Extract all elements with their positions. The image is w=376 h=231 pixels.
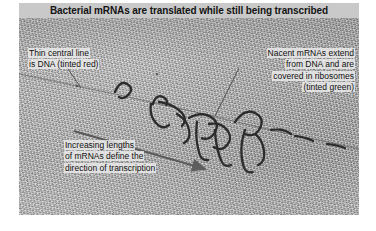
direction-of-transcription-label-text: Increasing lengths of mRNAs define the d…	[64, 140, 156, 173]
nacent-mrna-label: Nacent mRNAs extend from DNA and are cov…	[200, 36, 355, 94]
figure-title-bar: Bacterial mRNAs are translated while sti…	[19, 3, 359, 18]
thin-central-line-label: Thin central line is DNA (tinted red)	[28, 36, 99, 71]
direction-of-transcription-label: Increasing lengths of mRNAs define the d…	[64, 128, 156, 174]
thin-central-line-label-text: Thin central line is DNA (tinted red)	[28, 48, 99, 70]
nacent-mrna-label-text: Nacent mRNAs extend from DNA and are cov…	[267, 48, 355, 93]
page-title: Bacterial mRNAs are translated while sti…	[50, 5, 328, 16]
figure-panel: Bacterial mRNAs are translated while sti…	[0, 0, 376, 231]
